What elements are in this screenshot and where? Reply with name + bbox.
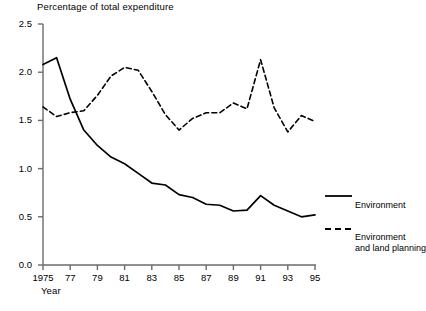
series-line-0 xyxy=(43,58,315,217)
axes xyxy=(38,24,316,270)
x-axis-ticks xyxy=(43,265,315,270)
data-series-group xyxy=(43,58,315,217)
y-axis-ticks xyxy=(38,24,43,265)
legend-label-environment-land-planning-line2: and land planning xyxy=(355,243,426,254)
legend-marks xyxy=(325,196,352,229)
legend-label-environment: Environment xyxy=(355,200,406,211)
series-line-1 xyxy=(43,60,315,132)
legend-label-environment-land-planning-line1: Environment xyxy=(355,232,406,243)
